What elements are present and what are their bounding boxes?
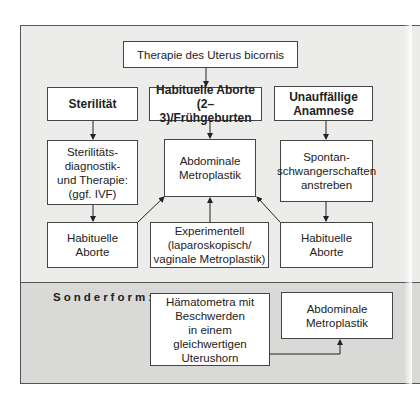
special-therapy-box: Abdominale Metroplastik: [281, 292, 393, 339]
header-sterility: Sterilität: [47, 87, 138, 121]
special-condition-box: Hämatometra mit Beschwerden in einem gle…: [150, 293, 270, 366]
outcome-experimental: Experimentell (laparoskopisch/ vaginale …: [150, 222, 269, 268]
step-spontaneous-pregnancy: Spontan- schwangerschaften anstreben: [280, 140, 373, 202]
outcome-habitual-abortion-left: Habituelle Aborte: [47, 222, 138, 268]
header-habitual-abortion: Habituelle Aborte (2–3)/Frühgeburten: [149, 87, 262, 121]
title-box: Therapie des Uterus bicornis: [123, 41, 298, 68]
outcome-habitual-abortion-right: Habituelle Aborte: [280, 222, 373, 268]
page-edge: [404, 0, 412, 404]
step-sterility-diagnostics: Sterilitäts- diagnostik- und Therapie: (…: [47, 140, 138, 205]
step-abdominal-metroplasty: Abdominale Metroplastik: [164, 139, 256, 197]
header-unremarkable-history: Unauffällige Anamnese: [274, 86, 373, 121]
special-form-label: Sonderform:: [53, 291, 155, 303]
